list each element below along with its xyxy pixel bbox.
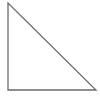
figure-canvas: [0, 0, 100, 96]
right-triangle-drawing: [0, 0, 100, 96]
canvas-background: [0, 0, 100, 96]
